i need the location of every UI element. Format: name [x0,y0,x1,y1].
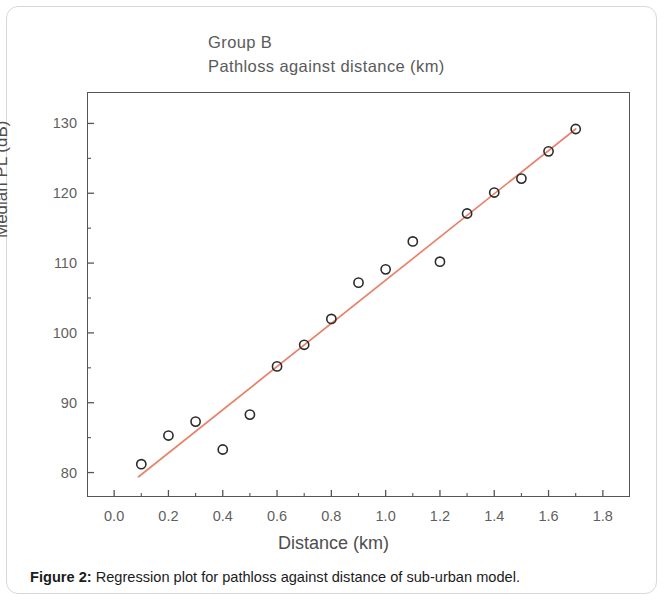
chart-title-line-2: Pathloss against distance (km) [208,57,445,76]
chart-figure: Group B Pathloss against distance (km) M… [0,0,667,605]
chart-title-line-1: Group B [208,33,272,52]
y-tick-label: 80 [35,465,77,481]
figure-page: Group B Pathloss against distance (km) M… [0,0,667,605]
data-point-marker [354,278,363,287]
x-tick-label: 1.4 [484,508,504,524]
data-point-marker [245,410,254,419]
data-point-marker [191,417,200,426]
x-tick-label: 0.6 [267,508,287,524]
x-tick-label: 0.0 [104,508,124,524]
data-point-marker [381,265,390,274]
y-tick-label: 110 [35,255,77,271]
y-tick-label: 100 [35,325,77,341]
data-point-marker [327,314,336,323]
x-tick-label: 0.2 [158,508,178,524]
data-point-marker [435,257,444,266]
data-point-marker [137,460,146,469]
y-tick-label: 90 [35,395,77,411]
y-tick-label: 120 [35,185,77,201]
plot-area: 0.00.20.40.60.81.01.21.41.61.88090100110… [87,92,630,497]
x-tick-label: 1.2 [430,508,450,524]
figure-caption: Figure 2: Regression plot for pathloss a… [30,568,642,586]
data-point-marker [490,188,499,197]
regression-line [139,129,576,477]
x-tick-label: 0.8 [321,508,341,524]
data-point-marker [408,237,417,246]
x-tick-label: 0.4 [213,508,233,524]
y-axis-label: Median PL (dB) [0,121,12,238]
data-point-marker [218,445,227,454]
plot-canvas [87,92,630,497]
data-point-marker [164,431,173,440]
x-tick-label: 1.0 [376,508,396,524]
x-tick-label: 1.6 [538,508,558,524]
y-tick-label: 130 [35,115,77,131]
figure-caption-text: Regression plot for pathloss against dis… [92,569,520,585]
data-point-marker [517,174,526,183]
x-axis-label: Distance (km) [0,533,667,554]
x-tick-label: 1.8 [593,508,613,524]
figure-caption-label: Figure 2: [30,569,92,585]
